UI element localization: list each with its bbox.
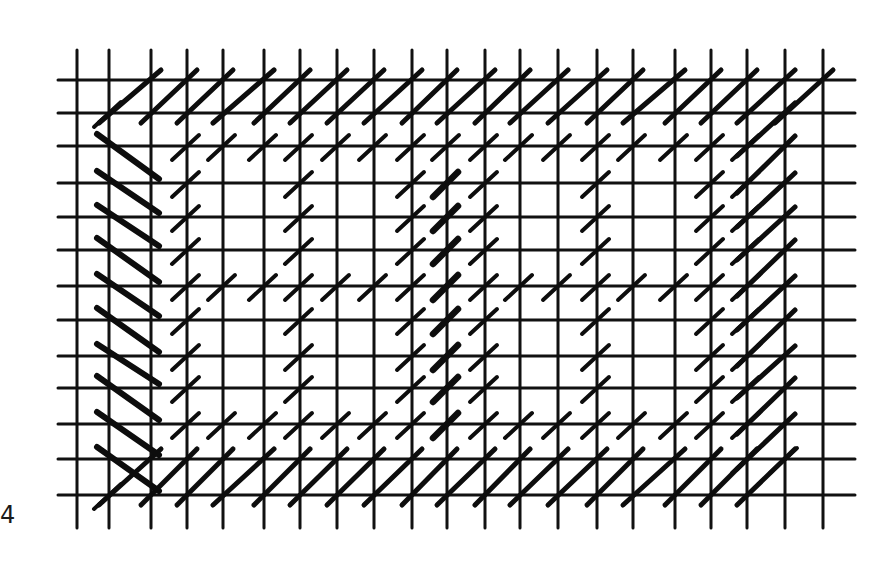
figure-number-label: 4 <box>0 503 15 527</box>
stitch-diagram <box>0 0 888 570</box>
stitches <box>94 70 833 509</box>
